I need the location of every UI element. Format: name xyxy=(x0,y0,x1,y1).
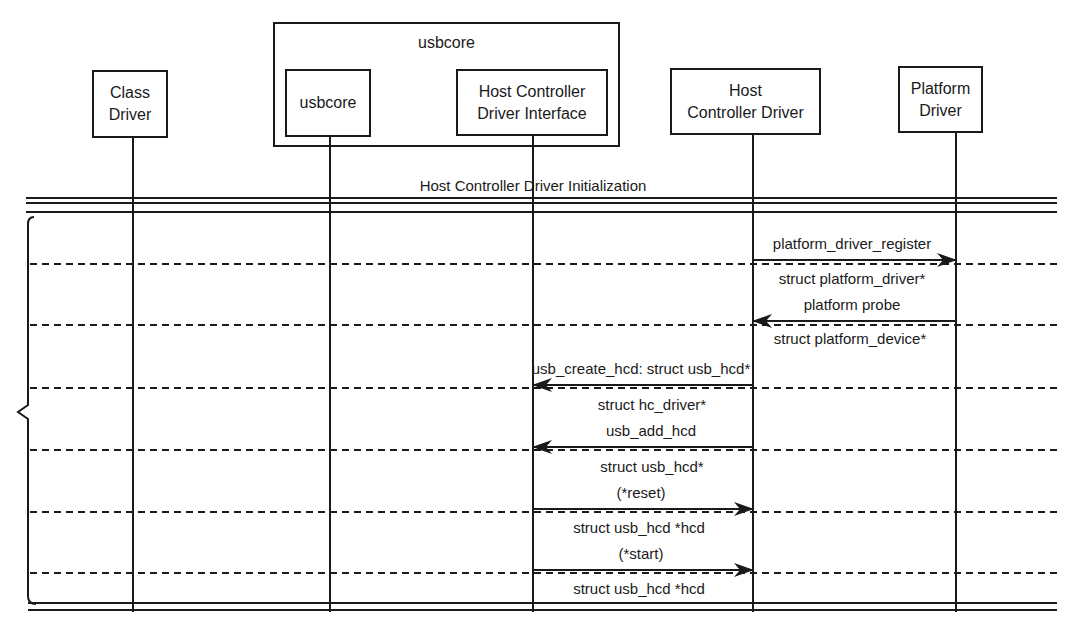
participant-class-driver: Class Driver xyxy=(92,70,168,138)
message-label-above: (*start) xyxy=(619,545,664,563)
participant-label: Driver xyxy=(109,104,152,126)
usbcore-group-label: usbcore xyxy=(275,34,618,52)
message-label-below: struct hc_driver* xyxy=(598,396,706,414)
dashed-guides xyxy=(30,264,1057,573)
message-label-below: struct usb_hcd* xyxy=(600,458,703,476)
message-label-above: platform probe xyxy=(804,296,901,314)
participant-label: Controller Driver xyxy=(687,102,803,124)
message-label-below: struct usb_hcd *hcd xyxy=(573,580,705,598)
message-label-below: struct platform_driver* xyxy=(779,270,926,288)
message-label-above: usb_add_hcd xyxy=(606,422,696,440)
participant-label: Class xyxy=(109,82,152,104)
participant-hcd-interface: Host Controller Driver Interface xyxy=(456,69,608,136)
participant-label: Driver xyxy=(911,100,971,122)
message-label-above: (*reset) xyxy=(616,484,665,502)
section-separator-top xyxy=(26,198,1057,212)
section-separator-bottom xyxy=(28,603,1057,610)
participant-label: Platform xyxy=(911,78,971,100)
participant-platform-driver: Platform Driver xyxy=(898,66,983,133)
participant-label: Host Controller xyxy=(477,81,586,103)
participant-label: Driver Interface xyxy=(477,103,586,125)
message-label-below: struct platform_device* xyxy=(774,330,927,348)
participant-hcd: Host Controller Driver xyxy=(670,68,821,135)
participant-label: usbcore xyxy=(300,92,357,114)
brace-icon xyxy=(18,217,36,604)
section-title: Host Controller Driver Initialization xyxy=(420,177,647,194)
message-label-below: struct usb_hcd *hcd xyxy=(573,519,705,537)
participant-label: Host xyxy=(687,80,803,102)
message-label-above: platform_driver_register xyxy=(773,235,931,253)
message-label-above: usb_create_hcd: struct usb_hcd* xyxy=(532,360,750,378)
participant-usbcore: usbcore xyxy=(285,69,371,137)
